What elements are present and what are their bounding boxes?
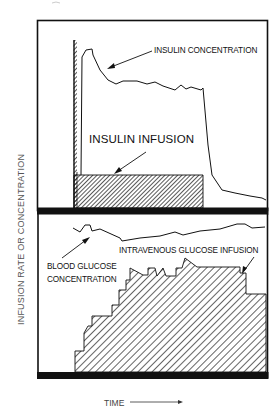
glucose-clamp-diagram (0, 0, 277, 420)
insulin-concentration-label: INSULIN CONCENTRATION (154, 46, 257, 55)
intravenous-glucose-infusion-label: INTRAVENOUS GLUCOSE INFUSION (119, 246, 258, 255)
panel-separator-bar (37, 208, 269, 215)
y-axis-label: INFUSION RATE OR CONCENTRATION (16, 154, 26, 325)
bottom-panel (37, 214, 269, 379)
x-axis-label: TIME (104, 398, 124, 408)
glucose-infusion-arrow-icon (242, 257, 254, 274)
scan-artifact (52, 2, 60, 3)
insulin-infusion-arrow-icon (114, 152, 146, 174)
bottom-baseline-bar (37, 372, 269, 379)
blood-glucose-arrow-icon (62, 237, 90, 258)
blood-glucose-label-line1: BLOOD GLUCOSE (47, 262, 117, 271)
insulin-infusion-label: INSULIN INFUSION (89, 133, 194, 145)
blood-glucose-line (73, 224, 265, 241)
insulin-concentration-arrow-icon (107, 51, 152, 69)
blood-glucose-label-line2: CONCENTRATION (47, 275, 117, 284)
insulin-infusion-area (74, 175, 203, 208)
time-arrow-icon (130, 400, 183, 404)
